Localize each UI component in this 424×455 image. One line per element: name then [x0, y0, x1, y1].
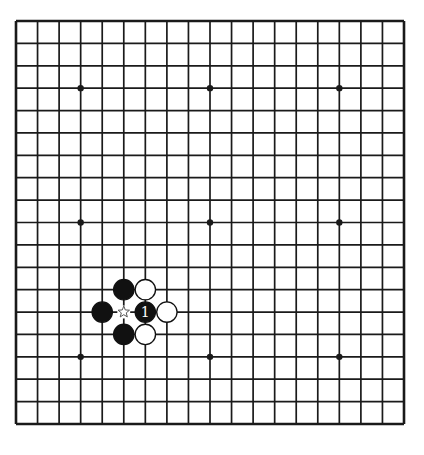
white-stone	[135, 324, 155, 344]
black-stone	[92, 302, 112, 322]
white-stone	[157, 302, 177, 322]
white-stone-icon	[135, 279, 155, 299]
black-stone-icon	[92, 302, 112, 322]
star-point	[207, 354, 213, 360]
star-point	[336, 219, 342, 225]
white-stone	[135, 279, 155, 299]
star-point	[77, 354, 83, 360]
star-point	[336, 354, 342, 360]
go-board: 1	[0, 0, 424, 455]
black-stone	[114, 324, 134, 344]
markers-layer	[117, 306, 130, 319]
black-stone-icon	[114, 324, 134, 344]
white-stone-icon	[135, 324, 155, 344]
star-point	[77, 219, 83, 225]
star-point	[336, 85, 342, 91]
move-number-label: 1	[141, 304, 150, 320]
black-stone-icon	[114, 279, 134, 299]
star-point	[77, 85, 83, 91]
star-point	[207, 219, 213, 225]
black-stone: 1	[135, 302, 155, 322]
black-stone	[114, 279, 134, 299]
star-point	[207, 85, 213, 91]
white-stone-icon	[157, 302, 177, 322]
